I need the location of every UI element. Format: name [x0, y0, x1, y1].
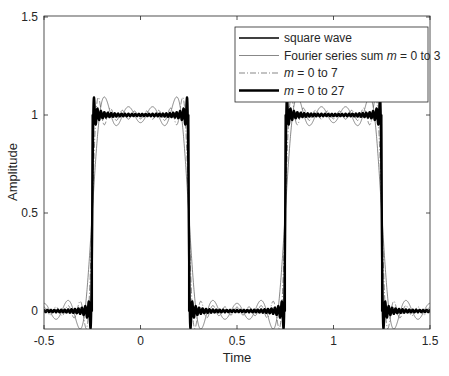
series-line	[44, 115, 430, 311]
legend-entry-label: m = 0 to 27	[284, 84, 345, 98]
legend-entry-label: Fourier series sum m = 0 to 3	[284, 49, 441, 63]
x-axis-label: Time	[223, 350, 251, 365]
plot-lines	[44, 97, 430, 329]
y-tick-label: 1	[31, 108, 38, 122]
x-tick-label: 0.5	[229, 334, 246, 348]
x-tick-label: 1.5	[422, 334, 439, 348]
y-tick-label: 1.5	[21, 10, 38, 24]
x-tick-label: 1	[330, 334, 337, 348]
y-tick-label: 0.5	[21, 206, 38, 220]
fourier-series-chart: -0.500.511.5 00.511.5 Time Amplitude squ…	[0, 0, 449, 376]
x-tick-label: -0.5	[34, 334, 55, 348]
x-tick-label: 0	[137, 334, 144, 348]
series-line	[44, 97, 430, 328]
legend: square waveFourier series sum m = 0 to 3…	[235, 27, 441, 102]
legend-entry-label: square wave	[284, 31, 352, 45]
series-line	[44, 97, 430, 329]
legend-entry-label: m = 0 to 7	[284, 66, 338, 80]
y-tick-label: 0	[31, 304, 38, 318]
series-line	[44, 97, 430, 328]
y-axis-label: Amplitude	[5, 143, 20, 201]
